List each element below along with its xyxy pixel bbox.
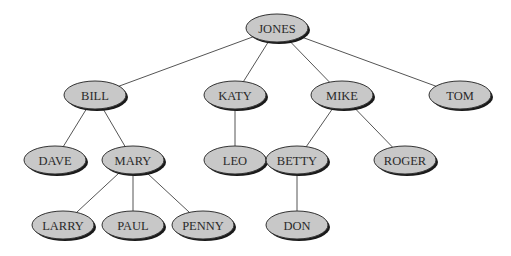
node-label: BETTY: [277, 154, 317, 168]
node-dave: DAVE: [24, 146, 88, 176]
node-label: PENNY: [182, 219, 224, 233]
node-label: LARRY: [42, 219, 84, 233]
node-larry: LARRY: [32, 211, 96, 241]
node-jones: JONES: [246, 14, 310, 44]
edges-layer: [55, 28, 460, 225]
node-katy: KATY: [204, 81, 268, 111]
edge-jones-tom: [277, 28, 460, 95]
node-tom: TOM: [429, 81, 493, 111]
node-mary: MARY: [102, 146, 166, 176]
node-penny: PENNY: [172, 211, 236, 241]
node-label: DON: [283, 219, 310, 233]
node-mike: MIKE: [311, 81, 375, 111]
node-label: MIKE: [326, 89, 358, 103]
nodes-layer: JONESBILLKATYMIKETOMDAVEMARYLEOBETTYROGE…: [24, 14, 493, 241]
node-leo: LEO: [204, 146, 268, 176]
node-label: DAVE: [38, 154, 71, 168]
node-bill: BILL: [64, 81, 128, 111]
node-label: ROGER: [384, 154, 427, 168]
node-betty: BETTY: [266, 146, 330, 176]
node-label: MARY: [115, 154, 152, 168]
node-label: TOM: [446, 89, 474, 103]
tree-diagram: JONESBILLKATYMIKETOMDAVEMARYLEOBETTYROGE…: [0, 0, 511, 256]
node-label: PAUL: [117, 219, 149, 233]
node-label: JONES: [258, 22, 296, 36]
node-label: BILL: [81, 89, 109, 103]
node-label: KATY: [218, 89, 251, 103]
node-don: DON: [266, 211, 330, 241]
node-label: LEO: [223, 154, 247, 168]
node-paul: PAUL: [102, 211, 166, 241]
node-roger: ROGER: [374, 146, 438, 176]
